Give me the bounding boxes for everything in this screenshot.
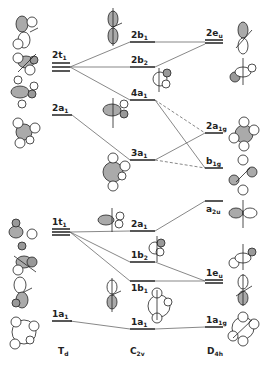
level-label-td-2a1: 2a1 xyxy=(52,104,69,114)
level-label-c2v-3a1: 3a1 xyxy=(131,149,148,159)
level-label-td-1a1: 1a1 xyxy=(52,310,69,320)
level-label-c2v-2b2: 2b2 xyxy=(131,56,148,66)
orbital-c2v-1b2 xyxy=(149,236,165,262)
orbital-d4h-2a1g xyxy=(229,117,259,151)
orbital-td-2t1-a xyxy=(13,16,38,49)
orbital-d4h-2eu-b xyxy=(230,58,256,85)
level-label-c2v-2a1: 2a1 xyxy=(131,220,148,230)
level-label-td-2t1: 2t1 xyxy=(52,51,67,61)
level-label-td-1t1: 1t1 xyxy=(52,218,67,228)
orbital-c2v-2b1 xyxy=(108,8,122,46)
level-label-d4h-1eu: 1eu xyxy=(206,269,223,279)
orbital-td-1a1 xyxy=(10,317,39,349)
orbital-c2v-2b2 xyxy=(153,68,171,92)
orbital-d4h-1eu-b xyxy=(236,274,252,306)
orbital-d4h-1eu-a xyxy=(229,244,256,270)
level-label-d4h-1a1g: 1a1g xyxy=(206,316,227,326)
level-label-c2v-4a1: 4a1 xyxy=(131,89,148,99)
orbital-d4h-b1g xyxy=(229,155,257,195)
column-label-td: Td xyxy=(58,347,68,357)
orbital-c2v-4a1 xyxy=(103,98,128,128)
column-label-d4h: D4h xyxy=(207,347,223,357)
column-label-c2v: C2v xyxy=(130,347,145,357)
orbital-td-1t1-a xyxy=(9,219,37,250)
orbital-td-1t1-b xyxy=(13,256,37,275)
level-label-c2v-1b2: 1b2 xyxy=(131,251,148,261)
level-label-d4h-2eu: 2eu xyxy=(206,29,223,39)
orbital-c2v-1b1 xyxy=(107,278,121,312)
level-label-d4h-a2u: a2u xyxy=(206,205,221,215)
level-label-c2v-1a1: 1a1 xyxy=(131,318,148,328)
orbital-d4h-1a1g xyxy=(228,312,259,346)
level-label-d4h-2a1g: 2a1g xyxy=(206,122,227,132)
level-label-c2v-2b1: 2b1 xyxy=(131,31,148,41)
orbital-td-2a1 xyxy=(13,118,40,148)
level-label-d4h-b1g: b1g xyxy=(206,157,221,167)
orbital-c2v-1a1 xyxy=(148,288,172,323)
orbital-td-2t1-c xyxy=(11,76,38,108)
orbital-d4h-a2u xyxy=(229,200,257,228)
orbital-td-2t1-b xyxy=(13,53,38,75)
orbital-c2v-3a1 xyxy=(103,153,130,191)
orbital-c2v-2a1 xyxy=(98,208,124,232)
orbital-d4h-2eu-a xyxy=(236,22,252,54)
orbital-td-1t1-c xyxy=(12,277,32,308)
level-label-c2v-1b1: 1b1 xyxy=(131,284,148,294)
